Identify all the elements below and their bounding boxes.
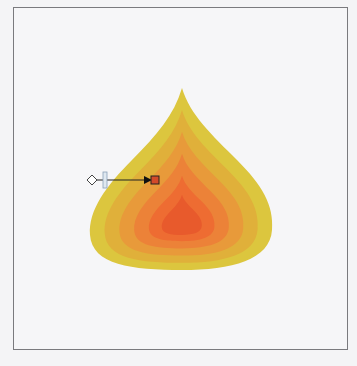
canvas[interactable] bbox=[0, 0, 357, 366]
gradient-start-diamond-handle[interactable] bbox=[87, 175, 97, 185]
flame-drop-shape[interactable] bbox=[90, 88, 272, 270]
gradient-end-square-handle[interactable] bbox=[151, 176, 159, 184]
gradient-midpoint-handle[interactable] bbox=[103, 172, 107, 188]
